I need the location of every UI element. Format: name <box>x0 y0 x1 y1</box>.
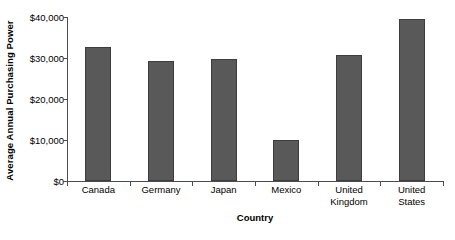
x-axis-category-label: UnitedKingdom <box>330 184 368 207</box>
y-axis-tick-mark <box>63 99 68 100</box>
x-axis-label-line: United <box>330 184 368 196</box>
x-axis-label-line: Germany <box>141 184 180 196</box>
bar-germany <box>148 61 174 181</box>
x-axis-label-line: Canada <box>82 184 115 196</box>
x-axis-category-label: Mexico <box>271 184 301 196</box>
y-axis-tick-mark <box>63 17 68 18</box>
x-axis-category-label: UnitedStates <box>398 184 425 207</box>
bar-united-kingdom <box>336 55 362 181</box>
y-axis-tick-label: $10,000 <box>30 135 64 146</box>
y-axis-tick-labels: $0$10,000$20,000$30,000$40,000 <box>18 0 67 200</box>
x-axis-label-line: Mexico <box>271 184 301 196</box>
y-axis-title: Average Annual Purchasing Power <box>0 0 18 200</box>
x-axis-tick-mark <box>443 181 444 186</box>
bar-japan <box>211 59 237 181</box>
bar-chart: Average Annual Purchasing Power $0$10,00… <box>0 0 455 240</box>
y-axis-tick-label: $40,000 <box>30 12 64 23</box>
bar-united-states <box>399 19 425 181</box>
x-axis-title: Country <box>67 212 443 223</box>
y-axis-title-text: Average Annual Purchasing Power <box>4 20 15 180</box>
x-axis-label-line: States <box>398 196 425 208</box>
bar-mexico <box>273 140 299 181</box>
y-axis-tick-label: $30,000 <box>30 53 64 64</box>
x-axis-label-line: United <box>398 184 425 196</box>
bar-canada <box>85 47 111 181</box>
x-axis-category-label: Canada <box>82 184 115 196</box>
x-axis-category-label: Japan <box>211 184 237 196</box>
y-axis-tick-mark <box>63 140 68 141</box>
y-axis-tick-mark <box>63 58 68 59</box>
y-axis-tick-label: $20,000 <box>30 94 64 105</box>
plot-area <box>67 17 443 181</box>
x-axis-label-line: Kingdom <box>330 196 368 208</box>
x-axis-label-line: Japan <box>211 184 237 196</box>
x-axis-category-label: Germany <box>141 184 180 196</box>
